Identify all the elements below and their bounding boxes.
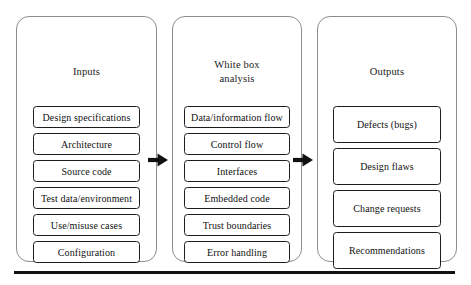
input-item-test-data-environment: Test data/environment (33, 187, 140, 209)
analysis-item-data-information-flow: Data/information flow (184, 106, 290, 128)
output-item-recommendations: Recommendations (333, 232, 441, 269)
input-item-use-misuse-cases: Use/misuse cases (33, 214, 140, 236)
input-item-source-code: Source code (33, 160, 140, 182)
panel-analysis-title: White box analysis (173, 58, 301, 85)
bottom-divider-rule (14, 271, 455, 274)
analysis-item-error-handling: Error handling (184, 241, 290, 263)
input-item-design-specifications: Design specifications (33, 106, 140, 128)
panel-inputs-item-list: Design specifications Architecture Sourc… (17, 106, 156, 263)
arrow-right-icon-inputs-to-analysis (147, 149, 169, 171)
input-item-architecture: Architecture (33, 133, 140, 155)
panel-outputs: Outputs Defects (bugs) Design flaws Chan… (317, 16, 457, 262)
panel-analysis-title-line1: White box (173, 58, 301, 72)
output-item-defects-bugs: Defects (bugs) (333, 106, 441, 143)
input-item-configuration: Configuration (33, 241, 140, 263)
arrow-right-icon-analysis-to-outputs (292, 149, 314, 171)
panel-outputs-item-list: Defects (bugs) Design flaws Change reque… (318, 106, 456, 269)
output-item-design-flaws: Design flaws (333, 148, 441, 185)
analysis-item-embedded-code: Embedded code (184, 187, 290, 209)
panel-analysis-title-line2: analysis (173, 72, 301, 86)
panel-analysis-item-list: Data/information flow Control flow Inter… (173, 106, 301, 263)
panel-inputs: Inputs Design specifications Architectur… (16, 16, 157, 262)
panel-inputs-title: Inputs (17, 65, 156, 79)
analysis-item-trust-boundaries: Trust boundaries (184, 214, 290, 236)
output-item-change-requests: Change requests (333, 190, 441, 227)
flow-diagram: Inputs Design specifications Architectur… (0, 0, 471, 285)
panel-outputs-title: Outputs (318, 65, 456, 79)
panel-white-box-analysis: White box analysis Data/information flow… (172, 16, 302, 262)
analysis-item-interfaces: Interfaces (184, 160, 290, 182)
analysis-item-control-flow: Control flow (184, 133, 290, 155)
